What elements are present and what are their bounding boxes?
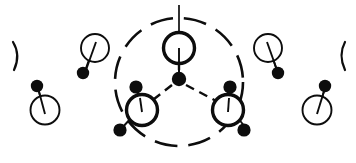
central-hub-dot [172,72,186,86]
left-bracket-arc [13,42,17,70]
cluster-bl-upper-blob [129,80,142,93]
satellite-ll-blob [31,80,43,92]
satellite-ul-blob [77,67,89,79]
satellite-unit-lower-left [31,80,60,125]
satellite-unit-lower-right [303,80,332,125]
right-bracket-arc [342,42,346,70]
cluster-unit-bottom-right [213,80,251,136]
satellite-lr-blob [319,80,331,92]
satellite-unit-upper-right [254,34,284,79]
satellite-unit-upper-left [77,34,109,79]
cluster-bl-lower-blob [113,123,126,136]
satellite-lr-ring [303,96,332,125]
trimer-cluster-diagram [0,0,356,163]
figure-canvas: Trimer cluster schematic ) ( [0,0,356,163]
satellite-ll-ring [31,96,60,125]
satellite-ur-ring [254,34,282,62]
cluster-br-lower-blob [237,123,250,136]
cluster-unit-top [164,5,195,74]
satellite-ul-ring [81,34,109,62]
satellite-ur-blob [272,67,284,79]
cluster-br-inner-stem [228,98,229,112]
cluster-br-upper-blob [223,80,236,93]
